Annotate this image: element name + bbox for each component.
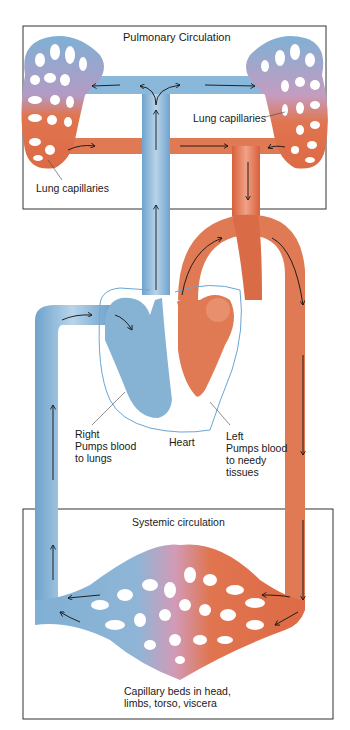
heart-label: Heart bbox=[169, 436, 195, 448]
systemic-capillary-label: Capillary beds in head, limbs, torso, vi… bbox=[124, 685, 231, 709]
lung-capillaries-label-right: Lung capillaries bbox=[193, 112, 266, 124]
right-heart bbox=[105, 298, 172, 418]
pulmonary-title: Pulmonary Circulation bbox=[123, 31, 231, 43]
systemic-title: Systemic circulation bbox=[132, 516, 225, 528]
flow-arrows bbox=[53, 85, 303, 625]
right-heart-label: Right Pumps blood to lungs bbox=[75, 428, 136, 464]
aorta bbox=[178, 215, 305, 600]
lung-capillaries-label-left: Lung capillaries bbox=[36, 182, 109, 194]
left-heart-label: Left Pumps blood to needy tissues bbox=[226, 430, 287, 478]
circulation-diagram bbox=[0, 0, 350, 730]
